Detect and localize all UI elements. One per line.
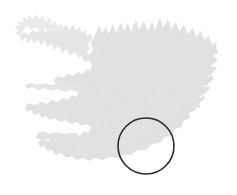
map-figure: Iceland (0, 0, 237, 195)
iceland-map-svg (0, 0, 237, 195)
